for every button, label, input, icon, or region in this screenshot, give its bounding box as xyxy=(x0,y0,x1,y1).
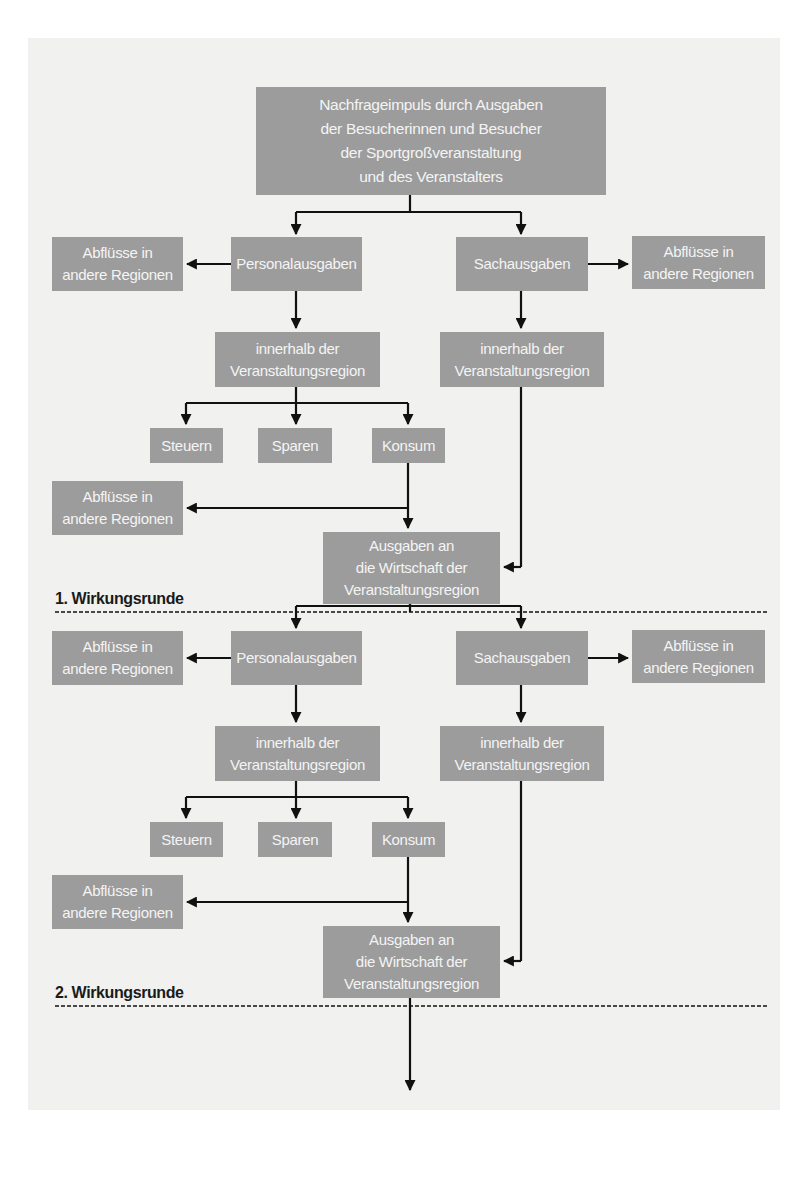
consumption-box-round2: Konsum xyxy=(372,822,445,857)
outflow-personal-box-round2: Abflüsse in andere Regionen xyxy=(52,631,183,685)
outflow-material-box-round2: Abflüsse in andere Regionen xyxy=(632,630,765,683)
within-region-material-box-round1: innerhalb der Veranstaltungsregion xyxy=(440,332,604,387)
within-region-personnel-box-round2: innerhalb der Veranstaltungsregion xyxy=(215,726,380,781)
taxes-box-round2: Steuern xyxy=(150,822,223,857)
outflow-material-box-round1: Abflüsse in andere Regionen xyxy=(632,236,765,289)
round-label-1: 1. Wirkungsrunde xyxy=(55,590,184,608)
within-region-personnel-box-round1: innerhalb der Veranstaltungsregion xyxy=(215,332,380,387)
taxes-box-round1: Steuern xyxy=(150,428,223,463)
material-spending-box-round1: Sachausgaben xyxy=(456,237,588,291)
demand-impulse-box: Nachfrageimpuls durch Ausgaben der Besuc… xyxy=(256,87,606,195)
round-label-2: 2. Wirkungsrunde xyxy=(55,984,184,1002)
outflow-consumption-box-round1: Abflüsse in andere Regionen xyxy=(52,481,183,535)
material-spending-box-round2: Sachausgaben xyxy=(456,631,588,685)
outflow-consumption-box-round2: Abflüsse in andere Regionen xyxy=(52,875,183,929)
savings-box-round2: Sparen xyxy=(258,822,332,857)
savings-box-round1: Sparen xyxy=(258,428,332,463)
regional-economy-spending-box-round1: Ausgaben an die Wirtschaft der Veranstal… xyxy=(323,532,500,604)
within-region-material-box-round2: innerhalb der Veranstaltungsregion xyxy=(440,726,604,781)
outflow-personal-box-round1: Abflüsse in andere Regionen xyxy=(52,237,183,291)
personnel-spending-box-round1: Personalausgaben xyxy=(231,237,362,291)
consumption-box-round1: Konsum xyxy=(372,428,445,463)
personnel-spending-box-round2: Personalausgaben xyxy=(231,631,362,685)
regional-economy-spending-box-round2: Ausgaben an die Wirtschaft der Veranstal… xyxy=(323,926,500,998)
